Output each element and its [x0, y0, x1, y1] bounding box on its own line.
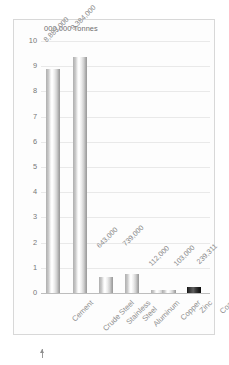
- y-tick-10: 10: [29, 37, 37, 44]
- axis-baseline: [41, 293, 210, 294]
- y-tick-5: 5: [33, 163, 37, 170]
- y-tick-8: 8: [33, 88, 37, 95]
- category-label-coal: Coal: [219, 299, 229, 316]
- chart-plot-container: 000,000 Tonnes 10 9 8 7 6: [14, 20, 214, 334]
- plot-area: 10 9 8 7 6 5 4 3 2 1 0: [41, 41, 210, 293]
- y-tick-3: 3: [33, 214, 37, 221]
- screenshot-root: 000,000 Tonnes 10 9 8 7 6: [0, 0, 229, 365]
- bar-aluminum[interactable]: [125, 274, 139, 293]
- y-tick-4: 4: [33, 188, 37, 195]
- bar-stainless-steel[interactable]: [99, 277, 113, 293]
- y-tick-9: 9: [33, 62, 37, 69]
- bar-cement[interactable]: [46, 69, 60, 293]
- bar-slot-aluminum: [125, 41, 139, 293]
- y-tick-2: 2: [33, 239, 37, 246]
- bar-slot-stainless-steel: [99, 41, 113, 293]
- resize-marker-arrow: [40, 349, 44, 353]
- y-tick-6: 6: [33, 138, 37, 145]
- resize-marker-icon: [40, 349, 45, 358]
- chart-card: 000,000 Tonnes 10 9 8 7 6: [13, 19, 215, 335]
- y-tick-0: 0: [33, 289, 37, 296]
- category-label-zinc: Zinc: [198, 299, 214, 315]
- bar-coal[interactable]: [187, 287, 201, 293]
- bar-crude-steel[interactable]: [73, 57, 87, 293]
- y-tick-7: 7: [33, 113, 37, 120]
- bar-slot-cement: [46, 41, 60, 293]
- category-label-cement: Cement: [71, 299, 96, 324]
- bar-slot-crude-steel: [73, 41, 87, 293]
- bar-zinc[interactable]: [162, 290, 176, 293]
- y-tick-1: 1: [33, 264, 37, 271]
